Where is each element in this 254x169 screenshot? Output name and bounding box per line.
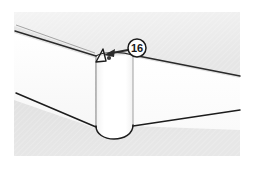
callout-bubble-16[interactable]: 16: [128, 39, 146, 57]
technical-illustration: 16: [0, 0, 254, 169]
corner-round-face: [96, 55, 133, 139]
illustration-screenshot: 16: [0, 0, 254, 169]
callout-number: 16: [131, 42, 143, 54]
